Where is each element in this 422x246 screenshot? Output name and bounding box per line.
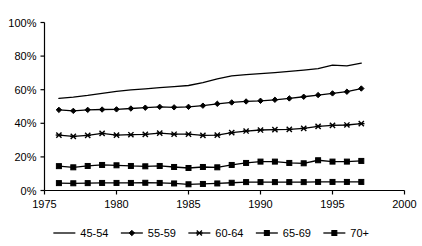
data-point: [200, 181, 205, 186]
data-point: [286, 127, 292, 132]
data-point: [229, 130, 235, 135]
data-point: [143, 180, 148, 185]
data-point: [258, 180, 263, 185]
data-point: [71, 108, 76, 113]
data-point: [359, 179, 364, 184]
data-point: [329, 123, 335, 128]
legend-item-45-54[interactable]: 45-54: [53, 227, 108, 239]
chart-container: 0%20%40%60%80%100% 197519801985199019952…: [0, 0, 422, 246]
series-45-54: [59, 63, 361, 98]
series-60-64: [56, 121, 365, 139]
legend-item-label: 70+: [350, 227, 369, 239]
data-point: [272, 97, 277, 102]
data-point: [215, 165, 220, 170]
y-tick-label: 0%: [21, 185, 37, 197]
x-axis: [45, 191, 405, 195]
data-point: [56, 132, 62, 137]
data-point: [200, 103, 205, 108]
data-point: [85, 163, 90, 168]
x-axis-tick-labels: 197519801985199019952000: [32, 198, 416, 210]
data-point: [258, 159, 263, 164]
legend-item-55-59[interactable]: 55-59: [121, 227, 176, 239]
data-point: [359, 86, 364, 91]
data-point: [157, 180, 162, 185]
series-55-59: [56, 86, 364, 114]
data-point: [100, 180, 105, 185]
data-point: [157, 104, 162, 109]
legend-item-60-64[interactable]: 60-64: [188, 227, 243, 239]
data-point: [172, 181, 177, 186]
x-tick-label: 1975: [32, 198, 56, 210]
data-point: [171, 105, 176, 110]
data-point: [186, 182, 191, 187]
legend-item-label: 65-69: [283, 227, 311, 239]
legend-swatch-marker: [196, 230, 202, 235]
data-point: [316, 179, 321, 184]
data-point: [71, 165, 76, 170]
data-point: [85, 133, 91, 138]
data-point: [316, 158, 321, 163]
series-70+: [56, 179, 363, 186]
data-point: [128, 132, 134, 137]
y-axis: [41, 23, 45, 191]
data-point: [142, 132, 148, 137]
data-point: [214, 132, 220, 137]
data-point: [99, 131, 105, 136]
data-point: [229, 100, 234, 105]
data-point: [359, 158, 364, 163]
y-tick-label: 20%: [14, 151, 36, 163]
y-axis-tick-labels: 0%20%40%60%80%100%: [8, 17, 36, 197]
data-point: [100, 162, 105, 167]
legend-item-65-69[interactable]: 65-69: [256, 227, 311, 239]
data-point: [330, 179, 335, 184]
data-point: [200, 164, 205, 169]
data-point: [215, 101, 220, 106]
data-point: [287, 96, 292, 101]
legend-swatch-marker: [332, 231, 337, 236]
data-point: [258, 98, 263, 103]
data-point: [243, 99, 248, 104]
data-point: [143, 105, 148, 110]
y-tick-label: 40%: [14, 117, 36, 129]
data-point: [128, 163, 133, 168]
data-point: [244, 160, 249, 165]
data-point: [330, 159, 335, 164]
data-point: [157, 163, 162, 168]
legend-item-70+[interactable]: 70+: [323, 227, 369, 239]
data-point: [229, 180, 234, 185]
data-point: [185, 132, 191, 137]
x-tick-label: 1980: [104, 198, 128, 210]
data-point: [344, 89, 349, 94]
data-point: [71, 181, 76, 186]
data-point: [344, 122, 350, 127]
data-point: [186, 165, 191, 170]
data-point: [85, 181, 90, 186]
chart-legend: 45-5455-5960-6465-6970+: [53, 227, 369, 239]
data-point: [301, 161, 306, 166]
data-point: [257, 127, 263, 132]
data-point: [56, 181, 61, 186]
data-point: [301, 126, 307, 131]
data-point: [287, 160, 292, 165]
data-point: [128, 106, 133, 111]
data-point: [301, 180, 306, 185]
data-point: [315, 124, 321, 129]
data-point: [244, 180, 249, 185]
data-point: [272, 180, 277, 185]
data-series-layer: [56, 63, 365, 187]
data-point: [344, 159, 349, 164]
data-point: [330, 91, 335, 96]
data-point: [114, 180, 119, 185]
data-point: [172, 164, 177, 169]
x-tick-label: 2000: [392, 198, 416, 210]
data-point: [215, 181, 220, 186]
data-point: [200, 133, 206, 138]
line-chart: 0%20%40%60%80%100% 197519801985199019952…: [0, 0, 422, 246]
data-point: [358, 121, 364, 126]
x-tick-label: 1995: [320, 198, 344, 210]
data-point: [243, 128, 249, 133]
legend-item-label: 55-59: [148, 227, 176, 239]
data-point: [85, 107, 90, 112]
data-point: [56, 164, 61, 169]
data-point: [344, 179, 349, 184]
